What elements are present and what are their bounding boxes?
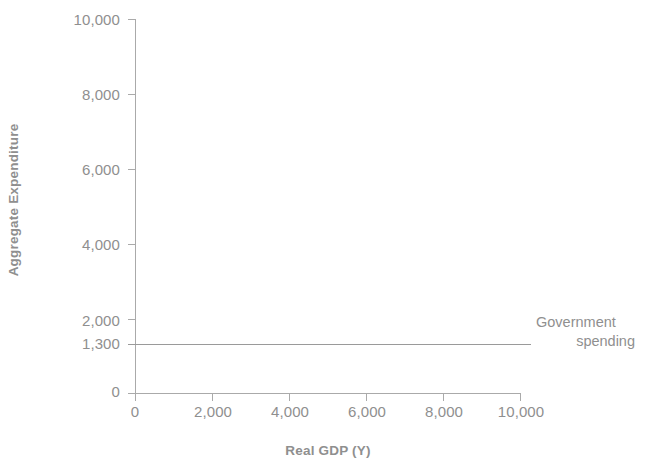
annotation-line-1: Government <box>536 313 648 332</box>
annotation-line-2: spending <box>536 332 648 351</box>
x-tick-label-10000: 10,000 <box>498 403 544 420</box>
aggregate-expenditure-chart: Aggregate Expenditure 10,000 8,000 6,000… <box>0 0 648 471</box>
y-axis-ticks <box>128 20 135 394</box>
x-tick-label-6000: 6,000 <box>348 403 386 420</box>
x-tick-label-0: 0 <box>131 403 139 420</box>
plot-area <box>0 0 648 471</box>
x-tick-label-8000: 8,000 <box>425 403 463 420</box>
x-tick-label-4000: 4,000 <box>271 403 309 420</box>
x-axis-ticks <box>136 393 521 401</box>
x-axis-title: Real GDP (Y) <box>135 443 521 458</box>
x-tick-label-2000: 2,000 <box>194 403 232 420</box>
government-spending-annotation: Government spending <box>536 313 648 351</box>
